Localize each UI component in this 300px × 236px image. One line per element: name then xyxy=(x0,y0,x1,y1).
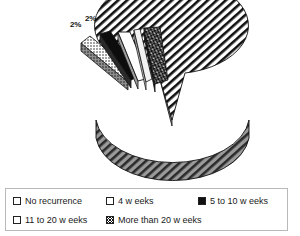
legend-label: 4 w eeks xyxy=(118,197,154,206)
legend-label: 11 to 20 w eeks xyxy=(25,216,87,225)
chart-canvas: 2% 2% 2% 4% 90% xyxy=(0,0,300,236)
legend-swatch-icon xyxy=(198,197,206,205)
chart-legend: No recurrence 4 w eeks 5 to 10 w eeks 11… xyxy=(5,188,288,231)
legend-swatch-icon xyxy=(13,197,21,205)
legend-row: No recurrence 4 w eeks 5 to 10 w eeks xyxy=(6,191,287,211)
legend-swatch-icon xyxy=(106,197,114,205)
legend-item-11-to-20-weeks[interactable]: 11 to 20 w eeks xyxy=(13,210,87,230)
legend-item-4-weeks[interactable]: 4 w eeks xyxy=(106,191,154,211)
legend-swatch-icon xyxy=(13,216,21,224)
legend-label: 5 to 10 w eeks xyxy=(210,197,268,206)
legend-label: More than 20 w eeks xyxy=(118,216,202,225)
legend-item-more-than-20-weeks[interactable]: More than 20 w eeks xyxy=(106,210,202,230)
legend-item-no-recurrence[interactable]: No recurrence xyxy=(13,191,82,211)
legend-swatch-icon xyxy=(106,216,114,224)
legend-row: 11 to 20 w eeks More than 20 w eeks xyxy=(6,210,287,230)
legend-label: No recurrence xyxy=(25,197,82,206)
pie-slice-no-recurrence xyxy=(95,0,250,181)
legend-item-5-to-10-weeks[interactable]: 5 to 10 w eeks xyxy=(198,191,268,211)
